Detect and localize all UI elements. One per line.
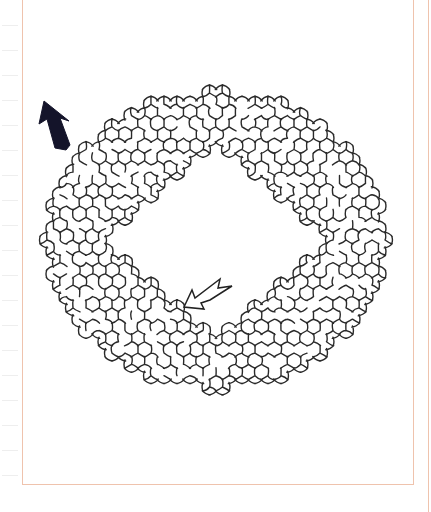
exit-arrow-icon [39, 101, 70, 150]
entrance-arrow-icon [184, 279, 232, 309]
maze-walls [40, 85, 393, 395]
maze-wall-path [40, 85, 393, 395]
maze [0, 0, 431, 512]
